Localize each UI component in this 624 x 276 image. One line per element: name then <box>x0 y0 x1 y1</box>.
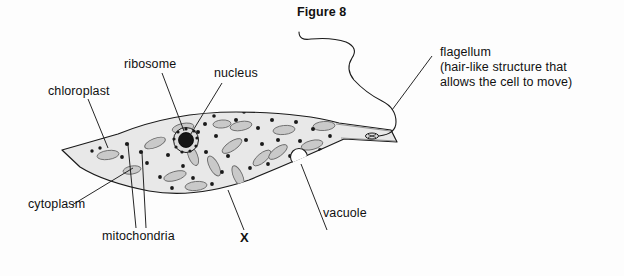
chloroplast <box>328 144 350 159</box>
ribosome-dot <box>166 153 170 157</box>
ribosome-dot <box>120 155 124 159</box>
ribosome-dot <box>191 176 195 180</box>
ribosome-dot <box>212 114 216 118</box>
label-flagellum-desc-line1: (hair-like structure that <box>440 60 567 75</box>
ribosome-dot <box>145 161 149 165</box>
ribosome-dot <box>244 138 248 142</box>
ribosome-dot <box>306 156 310 160</box>
label-mitochondria: mitochondria <box>102 229 175 244</box>
ribosome-dot <box>248 166 252 170</box>
ribosome-dot <box>276 138 280 142</box>
ribosome-dot <box>231 188 235 192</box>
label-vacuole: vacuole <box>323 206 367 221</box>
cell-diagram <box>0 0 624 276</box>
label-nucleus: nucleus <box>214 66 258 81</box>
ribosome-dot <box>298 139 302 143</box>
ribosome-dot <box>311 127 315 131</box>
ribosome-dot <box>318 148 322 152</box>
nucleus-core <box>179 133 194 148</box>
flagellum-basal-body <box>366 133 379 139</box>
ribosome-dot <box>90 149 93 152</box>
leader-flagellum <box>392 56 432 110</box>
ribosome-dot <box>158 175 162 179</box>
ribosome-dot <box>181 164 185 168</box>
ribosome-dot <box>266 162 270 166</box>
vacuole <box>291 149 308 166</box>
label-flagellum-desc-line2: allows the cell to move) <box>440 75 572 90</box>
label-marker-x: X <box>240 231 249 246</box>
ribosome-dot <box>328 134 332 138</box>
figure-canvas: Figure 8 chloroplast ribosome nucleus cy… <box>0 0 624 276</box>
ribosome-dot <box>203 122 207 126</box>
label-ribosome: ribosome <box>124 57 176 72</box>
label-cytoplasm: cytoplasm <box>28 197 85 212</box>
ribosome-dot <box>170 186 174 190</box>
ribosome-dot <box>214 134 218 138</box>
ribosome-dot <box>282 174 286 178</box>
ribosome-dot <box>220 170 224 174</box>
ribosome-dot <box>253 184 257 188</box>
ribosome-dot <box>234 118 238 122</box>
ribosome-dot <box>204 150 208 154</box>
ribosome-dot <box>256 126 260 130</box>
label-flagellum-name: flagellum <box>440 45 491 60</box>
label-chloroplast: chloroplast <box>48 84 110 99</box>
ribosome-dot <box>270 118 274 122</box>
ribosome-dot <box>98 146 101 149</box>
ribosome-dot <box>226 154 230 158</box>
ribosome-dot <box>210 182 214 186</box>
leader-marker-x <box>228 190 244 230</box>
ribosome-dot <box>294 120 298 124</box>
ribosome-dot <box>260 142 264 146</box>
figure-title: Figure 8 <box>297 5 346 20</box>
